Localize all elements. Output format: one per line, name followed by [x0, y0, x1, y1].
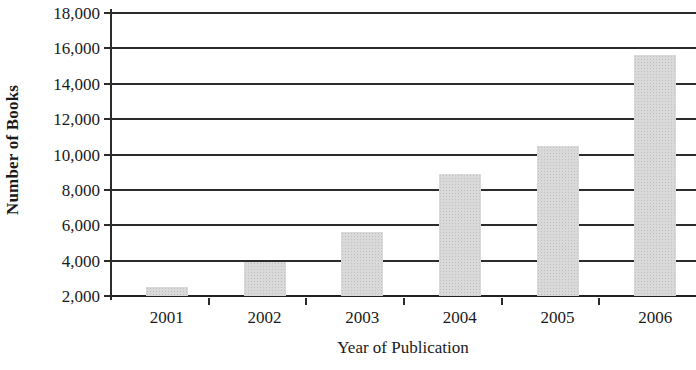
x-axis-title: Year of Publication [110, 338, 696, 358]
y-axis-tick-label: 16,000 [53, 40, 100, 57]
x-axis-tick-label: 2005 [541, 309, 575, 326]
y-axis-tick-label: 10,000 [53, 146, 100, 163]
y-axis-tick-label: 18,000 [53, 5, 100, 22]
x-axis: 200120022003200420052006 Year of Publica… [110, 296, 696, 370]
y-axis-tick-label: 14,000 [53, 75, 100, 92]
bar [244, 262, 286, 296]
plot-area [110, 13, 696, 296]
bar [341, 232, 383, 296]
y-axis-tick-label: 2,000 [62, 288, 100, 305]
bar [634, 55, 676, 296]
y-axis-title-label: Number of Books [3, 85, 23, 215]
x-axis-tick-mark [305, 298, 307, 305]
x-axis-tick-label: 2002 [248, 309, 282, 326]
y-axis-tick-label: 12,000 [53, 111, 100, 128]
x-axis-tick-mark [403, 298, 405, 305]
x-axis-tick-label: 2006 [638, 309, 672, 326]
y-axis-tick-label: 6,000 [62, 217, 100, 234]
x-axis-tick-label: 2004 [443, 309, 477, 326]
y-axis-title: Number of Books [0, 0, 26, 300]
x-axis-tick-mark [598, 298, 600, 305]
y-axis-tick-labels: 18,00016,00014,00012,00010,0008,0006,000… [26, 0, 106, 310]
x-axis-tick-mark [501, 298, 503, 305]
x-axis-tick-label: 2003 [345, 309, 379, 326]
y-axis-tick-label: 8,000 [62, 181, 100, 198]
bars-group [110, 13, 696, 296]
bar [537, 146, 579, 296]
y-axis-tick-label: 4,000 [62, 252, 100, 269]
bar [439, 174, 481, 296]
bar [146, 287, 188, 296]
x-axis-tick-mark [208, 298, 210, 305]
bar-chart: Number of Books 18,00016,00014,00012,000… [0, 0, 696, 370]
x-axis-tick-label: 2001 [150, 309, 184, 326]
